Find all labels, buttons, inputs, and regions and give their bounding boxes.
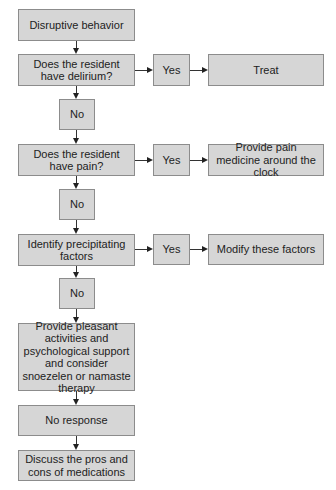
no-delirium-label: No	[70, 108, 84, 121]
connector-activities-to-no-response	[76, 391, 77, 399]
yes-pain-label: Yes	[163, 154, 181, 167]
question-box-pain: Does the resident have pain?	[18, 144, 135, 176]
yes-factors-label: Yes	[163, 243, 181, 256]
no-box-pain: No	[59, 189, 95, 220]
yes-box-factors: Yes	[153, 234, 190, 265]
connector-yes-to-modify	[190, 249, 202, 250]
no-response-label: No response	[45, 414, 107, 427]
action-box-modify-factors: Modify these factors	[208, 234, 324, 265]
activities-label: Provide pleasant activities and psycholo…	[21, 320, 132, 395]
action-box-treat: Treat	[208, 54, 324, 86]
connector-delirium-to-no	[76, 86, 77, 93]
action-treat-label: Treat	[253, 64, 278, 77]
question-box-factors: Identify precipitating factors	[18, 234, 135, 266]
connector-delirium-to-yes	[135, 70, 147, 71]
action-pain-medicine-label: Provide pain medicine around the clock	[212, 141, 320, 179]
yes-box-pain: Yes	[153, 144, 190, 176]
action-box-discuss-medications: Discuss the pros and cons of medications	[18, 450, 135, 481]
question-factors-label: Identify precipitating factors	[22, 238, 131, 263]
action-modify-factors-label: Modify these factors	[217, 243, 315, 256]
connector-no-to-pain	[76, 130, 77, 138]
no-box-factors: No	[59, 278, 95, 309]
no-pain-label: No	[70, 198, 84, 211]
yes-delirium-label: Yes	[163, 64, 181, 77]
discuss-medications-label: Discuss the pros and cons of medications	[22, 453, 131, 478]
connector-factors-to-yes	[135, 249, 147, 250]
question-box-delirium: Does the resident have delirium?	[18, 54, 135, 86]
start-box-disruptive-behavior: Disruptive behavior	[18, 9, 135, 41]
no-factors-label: No	[70, 287, 84, 300]
start-label: Disruptive behavior	[29, 19, 123, 32]
connector-no-to-activities	[76, 309, 77, 317]
yes-box-delirium: Yes	[153, 54, 190, 86]
connector-yes-to-pain-medicine	[190, 160, 202, 161]
action-box-pain-medicine: Provide pain medicine around the clock	[208, 144, 324, 176]
connector-no-to-factors	[76, 220, 77, 228]
connector-pain-to-yes	[135, 160, 147, 161]
question-delirium-label: Does the resident have delirium?	[22, 58, 131, 83]
connector-yes-to-treat	[190, 70, 202, 71]
action-box-pleasant-activities: Provide pleasant activities and psycholo…	[18, 323, 135, 391]
question-pain-label: Does the resident have pain?	[22, 148, 131, 173]
connector-no-response-to-medications	[76, 436, 77, 444]
connector-pain-to-no	[76, 176, 77, 183]
status-box-no-response: No response	[18, 405, 135, 436]
no-box-delirium: No	[59, 99, 95, 130]
